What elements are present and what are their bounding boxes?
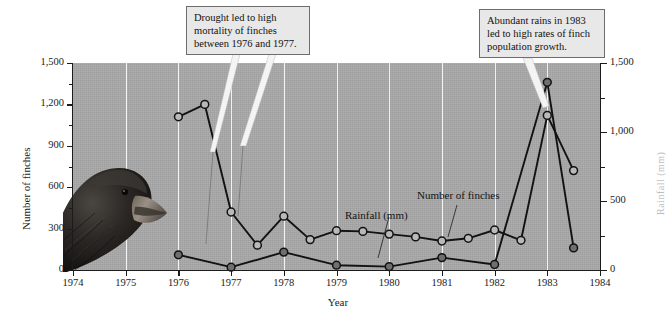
y-right-tick-250 <box>601 236 605 237</box>
y-right-label-0: 0 <box>610 264 654 274</box>
x-tick-1983 <box>547 271 548 276</box>
x-label-1978: 1978 <box>260 277 308 288</box>
rains-callout-line-3: population growth. <box>487 40 598 53</box>
y-left-tick-900 <box>67 146 73 147</box>
y-right-tick-1500 <box>601 63 607 64</box>
y-left-label-1200: 1,200 <box>24 98 64 108</box>
rains-callout-line-2: led to high rates of finch <box>487 27 598 40</box>
x-label-1983: 1983 <box>523 277 571 288</box>
x-label-1974: 1974 <box>49 277 97 288</box>
x-tick-1976 <box>178 271 179 276</box>
y-right-tick-750 <box>601 167 605 168</box>
x-tick-1981 <box>442 271 443 276</box>
drought-callout-line-1: Drought led to high <box>194 11 303 24</box>
x-label-1984: 1984 <box>576 277 624 288</box>
leader-rainfall-label <box>378 217 389 258</box>
x-label-1982: 1982 <box>471 277 519 288</box>
y-left-tick-1200 <box>67 104 73 105</box>
y-right-tick-0 <box>601 270 607 271</box>
y-right-label-1000: 1,000 <box>610 126 654 136</box>
y-left-tick-600 <box>67 187 73 188</box>
leader-drought-right <box>240 54 276 146</box>
x-label-1977: 1977 <box>207 277 255 288</box>
y-left-tick-1500 <box>67 63 73 64</box>
x-tick-1984 <box>600 271 601 276</box>
x-label-1980: 1980 <box>365 277 413 288</box>
x-label-1979: 1979 <box>313 277 361 288</box>
y-left-tick-300 <box>67 229 73 230</box>
x-tick-1975 <box>126 271 127 276</box>
y-left-tick-1050 <box>69 125 73 126</box>
leader-finches-label <box>448 205 457 237</box>
x-tick-1978 <box>284 271 285 276</box>
finches-series-label: Number of finches <box>417 189 499 201</box>
leader-drought-thin-a <box>206 152 213 244</box>
y-left-tick-750 <box>69 167 73 168</box>
drought-callout: Drought led to high mortality of finches… <box>186 6 310 55</box>
y-right-label-500: 500 <box>610 195 654 205</box>
x-tick-1979 <box>337 271 338 276</box>
y-right-tick-1000 <box>601 132 607 133</box>
y-left-label-1500: 1,500 <box>24 57 64 67</box>
y-axis-left-title: Number of finches <box>20 148 32 230</box>
rains-callout: Abundant rains in 1983 led to high rates… <box>479 9 605 58</box>
y-right-label-1500: 1,500 <box>610 57 654 67</box>
y-axis-right-title: Rainfall (mm) <box>655 152 666 215</box>
x-label-1981: 1981 <box>418 277 466 288</box>
x-label-1976: 1976 <box>154 277 202 288</box>
leader-drought-thin-b <box>238 146 243 216</box>
rains-callout-line-1: Abundant rains in 1983 <box>487 14 598 27</box>
x-tick-1982 <box>495 271 496 276</box>
x-tick-1974 <box>73 271 74 276</box>
y-right-tick-1250 <box>601 98 605 99</box>
y-left-label-0: 0 <box>24 264 64 274</box>
y-right-tick-500 <box>601 201 607 202</box>
drought-callout-line-2: mortality of finches <box>194 24 303 37</box>
leader-rains <box>523 58 549 108</box>
y-left-tick-1350 <box>69 84 73 85</box>
leader-drought-left <box>210 54 240 152</box>
rainfall-series-label: Rainfall (mm) <box>345 209 408 221</box>
x-tick-1980 <box>389 271 390 276</box>
x-label-1975: 1975 <box>102 277 150 288</box>
drought-callout-line-3: between 1976 and 1977. <box>194 37 303 50</box>
x-tick-1977 <box>231 271 232 276</box>
y-left-tick-450 <box>69 208 73 209</box>
y-left-tick-150 <box>69 249 73 250</box>
x-axis-title: Year <box>293 296 383 308</box>
